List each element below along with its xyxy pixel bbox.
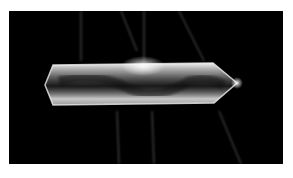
crystal-illustration xyxy=(9,11,283,164)
crystal-photo xyxy=(9,11,283,164)
